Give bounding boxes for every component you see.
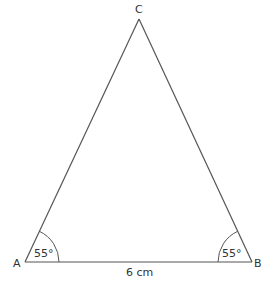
triangle-diagram: C A B 55° 55° 6 cm <box>0 0 277 290</box>
angle-label-a: 55° <box>34 247 54 260</box>
triangle <box>25 19 252 262</box>
vertex-label-a: A <box>13 257 21 270</box>
base-length-label: 6 cm <box>126 266 153 279</box>
side-ac <box>25 19 139 262</box>
vertex-label-c: C <box>135 3 143 16</box>
side-bc <box>139 19 252 262</box>
vertex-label-b: B <box>254 257 262 270</box>
angle-label-b: 55° <box>222 247 242 260</box>
